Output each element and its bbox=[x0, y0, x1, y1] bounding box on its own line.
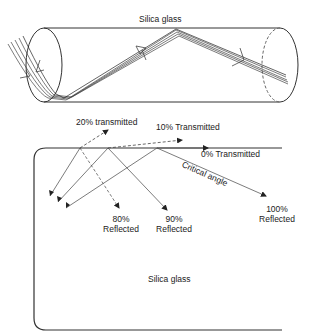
glass-boundary bbox=[34, 148, 282, 330]
top-title: Silica glass bbox=[139, 15, 182, 25]
label-90-reflected: 90% Reflected bbox=[153, 215, 195, 235]
label-0-transmitted: 0% Transmitted bbox=[201, 150, 260, 160]
incident-rays bbox=[50, 148, 157, 208]
label-90-word: Reflected bbox=[153, 225, 195, 235]
light-rays-bundle bbox=[8, 29, 288, 100]
label-100-reflected: 100% Reflected bbox=[256, 205, 298, 225]
label-80-reflected: 80% Reflected bbox=[100, 215, 142, 235]
wavefront-markers bbox=[20, 46, 244, 78]
label-10-transmitted: 10% Transmitted bbox=[156, 123, 220, 133]
label-80-word: Reflected bbox=[100, 225, 142, 235]
label-100-word: Reflected bbox=[256, 215, 298, 225]
bottom-medium-label: Silica glass bbox=[148, 275, 191, 285]
label-20-transmitted: 20% transmitted bbox=[76, 118, 137, 128]
